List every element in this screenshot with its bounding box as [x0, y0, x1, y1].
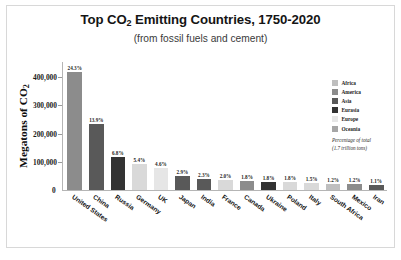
- bar-group: 1.5%Italy: [301, 66, 323, 190]
- bar-group: 1.8%Canada: [236, 66, 258, 190]
- y-tick-mark: [58, 162, 62, 163]
- bar-value-label: 1.2%: [327, 177, 339, 183]
- y-tick-label-0: 0: [52, 186, 56, 195]
- legend-item-label: Africa: [342, 80, 356, 86]
- bar-value-label: 4.6%: [155, 161, 167, 167]
- legend-item-label: America: [342, 89, 361, 95]
- chart-title-pre: Top CO: [81, 12, 127, 27]
- bar-group: 2.9%Japan: [172, 66, 194, 190]
- bar[interactable]: 1.1%: [369, 185, 384, 190]
- bar-value-label: 1.1%: [370, 178, 382, 184]
- bar-group: 24.3%United States: [64, 66, 86, 190]
- bar[interactable]: 5.4%: [132, 164, 147, 190]
- bar[interactable]: 24.3%: [67, 72, 82, 190]
- bar[interactable]: 6.8%: [111, 157, 126, 190]
- bar-group: 6.8%Russia: [107, 66, 129, 190]
- legend-note-line-1: Percentage of total: [332, 137, 394, 144]
- y-tick-mark: [58, 77, 62, 78]
- legend-item-label: Europe: [342, 116, 359, 122]
- chart-title-post: Emitting Countries, 1750-2020: [131, 12, 320, 27]
- bar-group: 5.4%Germany: [129, 66, 151, 190]
- y-axis-label-subscript: 2: [22, 84, 31, 88]
- legend-item-label: Asia: [342, 98, 352, 104]
- bar-value-label: 1.8%: [263, 175, 275, 181]
- y-tick-label: 300,000: [9, 101, 62, 110]
- bar[interactable]: 4.6%: [154, 168, 169, 190]
- bar[interactable]: 1.2%: [347, 184, 362, 190]
- y-tick-label: 400,000: [9, 73, 62, 82]
- legend-swatch-icon: [332, 98, 338, 104]
- bar-value-label: 2.3%: [198, 172, 210, 178]
- bar[interactable]: 1.5%: [304, 183, 319, 190]
- bar[interactable]: 1.2%: [326, 184, 341, 190]
- bar[interactable]: 1.8%: [261, 182, 276, 190]
- legend-swatch-icon: [332, 89, 338, 95]
- bar[interactable]: 13.9%: [89, 124, 104, 191]
- legend-swatch-icon: [332, 107, 338, 113]
- bar-value-label: 5.4%: [134, 157, 146, 163]
- legend-note: Percentage of total (1.7 trillion tons): [332, 137, 394, 152]
- bar-group: 13.9%China: [86, 66, 108, 190]
- y-tick-mark: [58, 134, 62, 135]
- legend-item[interactable]: Eurasia: [332, 106, 394, 115]
- bar-value-label: 1.8%: [241, 174, 253, 180]
- legend-swatch-icon: [332, 116, 338, 122]
- bar-group: 4.6%UK: [150, 66, 172, 190]
- bar-value-label: 13.9%: [89, 117, 103, 123]
- legend-item[interactable]: Europe: [332, 115, 394, 124]
- legend-item[interactable]: America: [332, 87, 394, 96]
- legend: AfricaAmericaAsiaEurasiaEuropeOceania Pe…: [332, 78, 394, 152]
- bar[interactable]: 1.8%: [240, 181, 255, 190]
- chart-title: Top CO2 Emitting Countries, 1750-2020: [0, 12, 401, 27]
- y-tick-mark: [58, 105, 62, 106]
- legend-rows: AfricaAmericaAsiaEurasiaEuropeOceania: [332, 78, 394, 133]
- x-axis-line: [62, 190, 387, 191]
- y-tick-label: 100,000: [9, 157, 62, 166]
- bar-group: 1.8%Poland: [279, 66, 301, 190]
- chart-title-subscript: 2: [127, 18, 132, 28]
- bar[interactable]: 2.9%: [175, 176, 190, 190]
- chart-figure: Top CO2 Emitting Countries, 1750-2020 (f…: [0, 0, 401, 260]
- legend-note-line-2: (1.7 trillion tons): [332, 145, 394, 152]
- bar[interactable]: 2.0%: [218, 180, 233, 190]
- bar-value-label: 2.0%: [220, 173, 232, 179]
- y-tick-label: 200,000: [9, 129, 62, 138]
- bar[interactable]: 2.3%: [197, 179, 212, 190]
- legend-item[interactable]: Asia: [332, 96, 394, 105]
- bar[interactable]: 1.8%: [283, 182, 298, 190]
- bar-value-label: 24.3%: [68, 65, 82, 71]
- bar-value-label: 2.9%: [177, 169, 189, 175]
- y-axis-line: [62, 62, 63, 191]
- bar-value-label: 1.8%: [284, 175, 296, 181]
- bar-value-label: 6.8%: [112, 150, 124, 156]
- bar-group: 2.0%France: [215, 66, 237, 190]
- bar-value-label: 1.5%: [306, 176, 318, 182]
- legend-item-label: Oceania: [342, 126, 361, 132]
- legend-item[interactable]: Oceania: [332, 124, 394, 133]
- bar-value-label: 1.2%: [349, 177, 361, 183]
- legend-swatch-icon: [332, 126, 338, 132]
- bar-group: 2.3%India: [193, 66, 215, 190]
- legend-swatch-icon: [332, 80, 338, 86]
- legend-item-label: Eurasia: [342, 107, 360, 113]
- legend-item[interactable]: Africa: [332, 78, 394, 87]
- chart-subtitle: (from fossil fuels and cement): [0, 33, 401, 44]
- bar-group: 1.8%Ukraine: [258, 66, 280, 190]
